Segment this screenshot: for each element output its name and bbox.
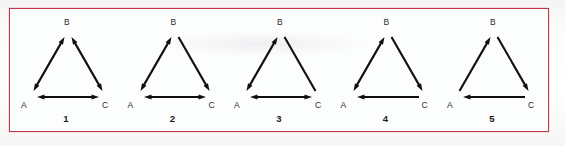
triangle-diagram-4: ABC4: [334, 9, 438, 129]
edge-a-b: [459, 37, 490, 91]
edge-b-c: [391, 37, 422, 91]
vertex-label-c: C: [209, 101, 215, 110]
edge-a-b: [246, 37, 277, 91]
vertex-label-c: C: [528, 101, 534, 110]
edge-a-c: [144, 95, 206, 100]
triangle-diagram-1: ABC1: [14, 9, 118, 129]
vertex-label-a: A: [128, 101, 134, 110]
triangle-diagram-2: ABC2: [121, 9, 225, 129]
vertex-label-b: B: [490, 18, 496, 27]
edge-a-b: [33, 37, 64, 91]
vertex-label-c: C: [315, 101, 321, 110]
edge-a-b: [140, 37, 171, 91]
edge-a-c: [357, 95, 419, 100]
diagram-panel: ABC1ABC2ABC3ABC4ABC5: [9, 8, 549, 132]
vertex-label-a: A: [447, 101, 453, 110]
edge-a-c: [37, 95, 99, 100]
edge-b-c: [71, 37, 102, 91]
edge-a-c: [250, 95, 312, 100]
figure-root: ABC1ABC2ABC3ABC4ABC5: [0, 0, 565, 146]
edge-a-c: [463, 95, 525, 100]
diagram-number: 3: [227, 113, 331, 124]
triangle-diagram-5: ABC5: [440, 9, 544, 129]
vertex-label-a: A: [21, 101, 27, 110]
vertex-label-b: B: [277, 18, 283, 27]
diagram-number: 5: [440, 113, 544, 124]
edge-b-c: [497, 37, 528, 91]
vertex-label-a: A: [234, 101, 240, 110]
diagram-row: ABC1ABC2ABC3ABC4ABC5: [10, 9, 548, 131]
vertex-label-b: B: [384, 18, 390, 27]
triangle-diagram-3: ABC3: [227, 9, 331, 129]
vertex-label-b: B: [64, 18, 70, 27]
vertex-label-a: A: [341, 101, 347, 110]
diagram-number: 1: [14, 113, 118, 124]
edge-b-c: [284, 37, 315, 91]
vertex-label-c: C: [102, 101, 108, 110]
edge-b-c: [178, 37, 209, 91]
vertex-label-b: B: [171, 18, 177, 27]
edge-a-b: [353, 37, 384, 91]
vertex-label-c: C: [422, 101, 428, 110]
diagram-number: 2: [121, 113, 225, 124]
diagram-number: 4: [334, 113, 438, 124]
